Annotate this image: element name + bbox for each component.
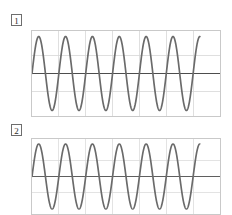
plot-area-2[interactable] bbox=[31, 138, 221, 215]
plot-area-1[interactable] bbox=[31, 30, 221, 117]
waveform-panel-1: 1 bbox=[0, 14, 232, 118]
panel-1-label: 1 bbox=[11, 14, 22, 26]
panel-2-label: 2 bbox=[11, 124, 22, 136]
waveform-trace-2 bbox=[32, 139, 220, 214]
waveform-trace-1 bbox=[32, 31, 220, 116]
waveform-panel-2: 2 bbox=[0, 124, 232, 215]
waveform-page: 1 2 bbox=[0, 0, 232, 215]
